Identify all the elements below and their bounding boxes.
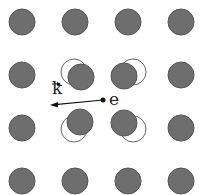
electron-label: e bbox=[109, 91, 119, 108]
displaced-ion bbox=[111, 110, 137, 136]
wavevector-label: k bbox=[52, 80, 62, 97]
ion-circle bbox=[115, 9, 141, 35]
ion-circle bbox=[115, 168, 141, 194]
ion-circle bbox=[62, 9, 88, 35]
velocity-arrow bbox=[55, 100, 103, 105]
displaced-ion bbox=[68, 64, 94, 90]
lattice-diagram: k e bbox=[0, 0, 200, 195]
ion-circle bbox=[9, 9, 35, 35]
ion-circle bbox=[9, 62, 35, 88]
ion-circle bbox=[9, 115, 35, 141]
ion-circle bbox=[168, 115, 194, 141]
arrowhead-icon bbox=[50, 102, 58, 108]
displaced-ion bbox=[67, 109, 93, 135]
ion-circle bbox=[62, 168, 88, 194]
ion-circle bbox=[9, 168, 35, 194]
ion-circle bbox=[168, 168, 194, 194]
ion-circle bbox=[168, 62, 194, 88]
displaced-ion bbox=[111, 63, 137, 89]
lattice-svg bbox=[0, 0, 200, 195]
ion-circle bbox=[168, 9, 194, 35]
electron-dot bbox=[101, 98, 106, 103]
